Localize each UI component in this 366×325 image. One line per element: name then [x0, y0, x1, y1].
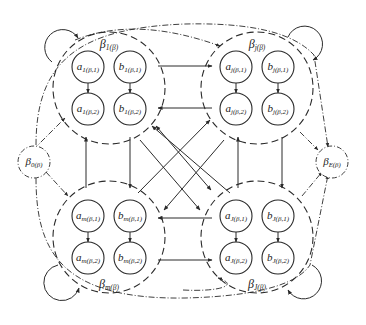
flow-bottom-arc	[36, 175, 328, 298]
edge-diag-4	[164, 140, 224, 210]
flow-top-arc-2	[75, 29, 220, 46]
cluster-bottom-right	[201, 181, 313, 293]
flow-top-arc	[36, 24, 328, 147]
flow-start-to-bottom-left	[46, 172, 68, 196]
edge-diag-2	[156, 126, 211, 190]
self-loop-top-right	[288, 26, 323, 60]
cluster-label-bottom-left: βm(β)	[98, 277, 120, 292]
flow-bottom-right-to-end	[302, 172, 322, 196]
self-loop-bottom-right	[288, 265, 322, 299]
cluster-label-top-left: β1(β)	[99, 37, 119, 52]
edge-diag-6	[152, 126, 230, 193]
cluster-label-top-right: βj(β)	[248, 37, 266, 52]
self-loop-bottom-left	[44, 265, 79, 301]
edge-diag-5	[138, 120, 210, 193]
diagram-canvas: a1(β,1)b1(β,1)a1(β,2)b1(β,2)β1(β)aj(β,1)…	[0, 0, 366, 325]
cluster-label-bottom-right: βJ(β)	[247, 277, 266, 292]
cluster-bottom-left	[53, 181, 165, 293]
flow-top-right-to-end	[300, 132, 318, 150]
flow-start-to-top-left	[33, 118, 65, 150]
edge-diag-3	[140, 140, 200, 210]
